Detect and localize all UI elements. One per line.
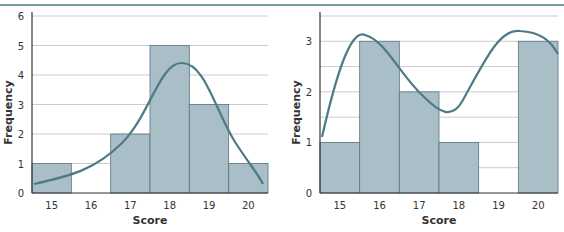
y-tick-label: 5 (18, 41, 24, 52)
histogram-bar (439, 142, 479, 193)
y-tick-label: 1 (18, 159, 24, 170)
x-tick-label: 15 (333, 200, 346, 211)
y-tick-label: 3 (18, 100, 24, 111)
y-tick-label: 0 (18, 188, 24, 199)
x-tick-label: 20 (532, 200, 545, 211)
x-tick-label: 18 (163, 200, 176, 211)
y-axis-label: Frequency (290, 80, 303, 144)
x-tick-label: 19 (492, 200, 505, 211)
x-tick-label: 15 (45, 200, 58, 211)
x-tick-label: 17 (413, 200, 426, 211)
histogram-bar (229, 164, 268, 194)
histogram-bar (360, 41, 400, 193)
y-tick-label: 3 (306, 36, 312, 47)
x-axis-label: Score (422, 214, 457, 227)
histogram-bar (320, 142, 360, 193)
y-tick-label: 6 (18, 11, 24, 22)
y-tick-label: 1 (306, 137, 312, 148)
x-tick-label: 16 (85, 200, 98, 211)
histogram-bar (32, 164, 71, 194)
histogram-bar (399, 92, 439, 193)
y-axis-label: Frequency (2, 80, 15, 144)
y-tick-label: 2 (306, 87, 312, 98)
x-tick-label: 16 (373, 200, 386, 211)
x-tick-label: 17 (124, 200, 137, 211)
histogram-figure: 0123456151617181920ScoreFrequency0123151… (0, 0, 564, 232)
x-axis-label: Score (133, 214, 168, 227)
histogram-bar (111, 134, 150, 193)
y-tick-label: 4 (18, 70, 24, 81)
histogram-bar (518, 41, 558, 193)
y-tick-label: 0 (306, 188, 312, 199)
x-tick-label: 20 (242, 200, 255, 211)
y-tick-label: 2 (18, 129, 24, 140)
x-tick-label: 19 (203, 200, 216, 211)
x-tick-label: 18 (452, 200, 465, 211)
